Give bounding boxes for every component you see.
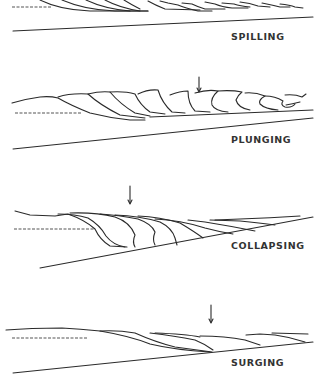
wave-profiles — [6, 328, 308, 352]
seabed-slope — [13, 17, 313, 31]
label-plunging: PLUNGING — [231, 134, 291, 145]
label-spilling: SPILLING — [231, 31, 285, 42]
panel-spilling — [12, 0, 313, 31]
break-point-arrow — [209, 305, 213, 323]
wave-profiles — [12, 90, 313, 120]
break-point-arrow — [197, 77, 201, 92]
break-point-arrow — [128, 186, 132, 204]
wave-profiles — [40, 0, 303, 11]
breaker-types-diagram — [0, 0, 326, 379]
label-surging: SURGING — [231, 357, 284, 368]
panel-collapsing — [14, 186, 313, 268]
label-collapsing: COLLAPSING — [231, 240, 305, 251]
